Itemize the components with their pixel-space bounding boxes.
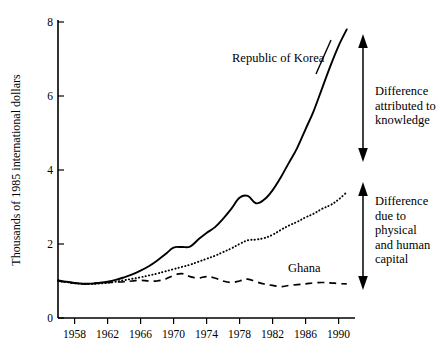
arrow-head-up — [358, 182, 368, 196]
y-tick-label: 6 — [47, 90, 53, 102]
x-tick-label: 1966 — [129, 328, 152, 340]
y-axis-ticks: 0 2 4 6 8 — [47, 16, 64, 324]
series-line-ghana — [58, 274, 347, 287]
y-tick-label: 4 — [47, 164, 53, 176]
x-axis-ticks: 1958 1962 1966 1970 1974 1978 1982 1986 … — [63, 318, 350, 340]
arrow-head-down — [358, 276, 368, 290]
annotation-knowledge-difference: Difference attributed to knowledge — [375, 84, 436, 128]
y-tick-label: 2 — [47, 238, 53, 250]
chart-figure: Thousands of 1985 international dollars … — [0, 0, 444, 356]
x-tick-label: 1958 — [63, 328, 86, 340]
arrow-head-up — [358, 34, 368, 48]
annotation-capital-difference: Difference due to physical and human cap… — [375, 194, 430, 267]
series-label-ghana: Ghana — [288, 261, 321, 275]
x-tick-label: 1990 — [327, 328, 350, 340]
x-tick-label: 1978 — [228, 328, 251, 340]
chart-canvas: Thousands of 1985 international dollars … — [0, 0, 444, 356]
series-line-korea — [58, 29, 347, 283]
arrow-head-down — [358, 148, 368, 162]
x-tick-label: 1982 — [261, 328, 284, 340]
series-label-korea: Republic of Korea — [232, 51, 325, 65]
knowledge-difference-arrow — [358, 34, 368, 162]
y-axis-title: Thousands of 1985 international dollars — [9, 74, 23, 266]
x-tick-label: 1986 — [294, 328, 317, 340]
x-tick-label: 1962 — [96, 328, 119, 340]
capital-difference-arrow — [358, 182, 368, 290]
x-tick-label: 1974 — [195, 328, 218, 340]
y-tick-label: 8 — [47, 16, 53, 28]
y-tick-label: 0 — [47, 312, 53, 324]
x-tick-label: 1970 — [162, 328, 185, 340]
